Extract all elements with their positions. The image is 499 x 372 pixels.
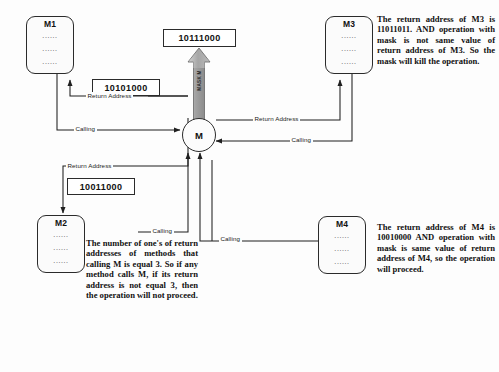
note-m3-text: The return address of M3 is 11011011. AN… [377, 14, 495, 66]
return-address-value-m1: 10101000 [104, 83, 147, 93]
central-node-m[interactable]: M [182, 118, 216, 152]
method-dots: ...... [42, 30, 57, 42]
method-label-m1: M1 [44, 19, 56, 29]
method-dots: ...... [341, 56, 356, 68]
method-dots: ...... [334, 256, 349, 268]
note-m4: The return address of M4 is 10010000 AND… [377, 222, 495, 274]
method-dots: ...... [334, 230, 349, 242]
method-dots: ...... [341, 43, 356, 55]
mask-value-box[interactable]: 10111000 [163, 29, 236, 47]
edge-label-m4-calling: Calling [219, 235, 242, 242]
method-box-m3[interactable]: M3 ...... ...... ...... [325, 16, 373, 74]
edge-label-m3-return: Return Address [253, 115, 300, 122]
edge-label-m1-return: Return Address [86, 92, 133, 99]
return-address-box-m2[interactable]: 10011000 [67, 178, 135, 195]
note-m3: The return address of M3 is 11011011. AN… [377, 14, 495, 66]
note-m2-text: The number of one's of return addresses … [86, 238, 198, 300]
method-dots: ...... [42, 56, 57, 68]
method-box-m1[interactable]: M1 ...... ...... ...... [26, 16, 74, 74]
method-dots: ...... [53, 229, 68, 241]
method-box-m4[interactable]: M4 ...... ...... ...... [318, 216, 366, 274]
diagram-canvas: M1 ...... ...... ...... M2 ...... ......… [0, 0, 499, 372]
method-dots: ...... [53, 255, 68, 267]
method-label-m3: M3 [343, 19, 355, 29]
note-m2: The number of one's of return addresses … [86, 238, 198, 300]
method-label-m2: M2 [55, 218, 67, 228]
edge-label-m1-calling: Calling [74, 125, 97, 132]
return-address-value-m2: 10011000 [80, 182, 123, 192]
mask-arrow-label: MASK M [197, 66, 202, 96]
method-box-m2[interactable]: M2 ...... ...... ...... [37, 215, 85, 273]
method-dots: ...... [53, 242, 68, 254]
edge-label-m2-return: Return Address [66, 162, 113, 169]
edge-label-m3-calling: Calling [290, 136, 313, 143]
mask-value-text: 10111000 [178, 33, 220, 43]
method-dots: ...... [42, 43, 57, 55]
method-dots: ...... [341, 30, 356, 42]
central-node-label: M [195, 130, 203, 141]
method-label-m4: M4 [336, 219, 348, 229]
method-dots: ...... [334, 243, 349, 255]
edge-label-m2-calling: Calling [151, 227, 174, 234]
note-m4-text: The return address of M4 is 10010000 AND… [377, 222, 495, 274]
